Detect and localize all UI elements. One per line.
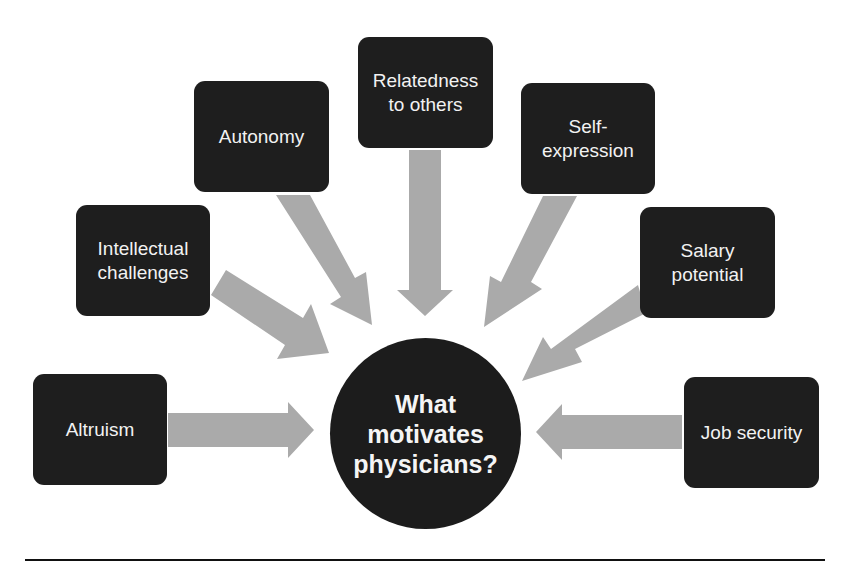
arrow-job-security-icon — [536, 404, 682, 460]
bottom-rule-divider — [25, 559, 825, 561]
arrow-relatedness-icon — [397, 150, 453, 316]
factor-salary-potential: Salary potential — [640, 207, 775, 318]
factor-job-security: Job security — [684, 377, 819, 488]
arrow-intellectual-icon — [211, 270, 329, 359]
arrow-altruism-icon — [168, 402, 314, 458]
factor-autonomy: Autonomy — [194, 81, 329, 192]
factor-altruism: Altruism — [33, 374, 167, 485]
factor-intellectual-challenges: Intellectual challenges — [76, 205, 210, 316]
motivation-diagram: Altruism Intellectual challenges Autonom… — [0, 0, 848, 569]
arrow-self-expression-icon — [484, 196, 577, 327]
arrow-autonomy-icon — [276, 195, 372, 325]
factor-relatedness: Relatedness to others — [358, 37, 493, 148]
center-question: What motivates physicians? — [330, 338, 521, 529]
arrow-salary-icon — [522, 285, 646, 381]
factor-self-expression: Self- expression — [521, 83, 655, 194]
